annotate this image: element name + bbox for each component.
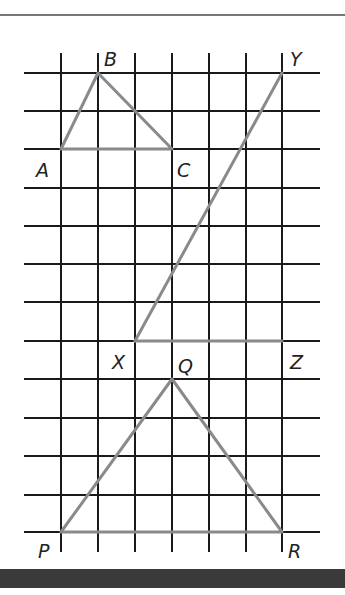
label-y: Y — [290, 48, 303, 70]
label-x: X — [111, 351, 126, 373]
label-q: Q — [178, 355, 193, 377]
bottom-dark-band — [0, 569, 345, 588]
label-c: C — [177, 159, 191, 181]
label-p: P — [38, 540, 50, 562]
label-r: R — [288, 540, 301, 562]
grid-diagram: A B C X Y Z P Q R — [0, 0, 345, 595]
label-b: B — [104, 48, 117, 70]
label-z: Z — [289, 351, 304, 373]
label-a: A — [34, 159, 49, 181]
